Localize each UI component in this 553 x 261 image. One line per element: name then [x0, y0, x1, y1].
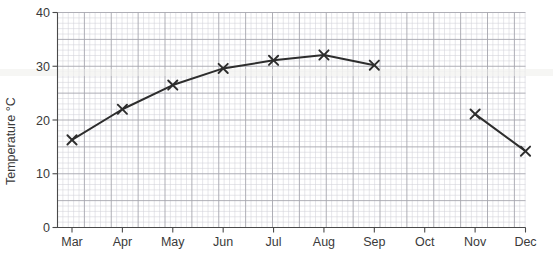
y-axis-title: Temperature °C	[4, 97, 18, 185]
y-tick-label-40: 40	[36, 6, 50, 20]
y-tick-label-30: 30	[36, 60, 50, 74]
chart-canvas: 40 30 20 10 0 MarAprMayJunJulAugSepOctNo…	[0, 0, 553, 261]
x-tick-label-may: May	[161, 235, 185, 249]
x-tick-label-nov: Nov	[464, 235, 487, 249]
x-tick-label-jun: Jun	[213, 235, 233, 249]
x-tick-label-jul: Jul	[266, 235, 282, 249]
x-tick-label-oct: Oct	[415, 235, 435, 249]
x-tick-label-mar: Mar	[61, 235, 83, 249]
y-tick-label-20: 20	[36, 114, 50, 128]
x-tick-label-dec: Dec	[514, 235, 536, 249]
y-tick-label-10: 10	[36, 167, 50, 181]
temperature-line-chart: 40 30 20 10 0 MarAprMayJunJulAugSepOctNo…	[0, 0, 553, 261]
x-tick-label-aug: Aug	[313, 235, 335, 249]
y-tick-label-0: 0	[43, 221, 50, 235]
scan-artifact-band	[0, 69, 553, 76]
x-tick-label-apr: Apr	[113, 235, 132, 249]
x-tick-label-sep: Sep	[363, 235, 385, 249]
